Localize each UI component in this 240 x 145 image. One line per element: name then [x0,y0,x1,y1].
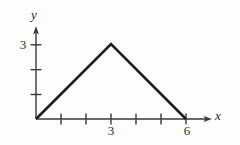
y-axis-label: y [31,8,37,21]
graph-figure: y x 3 3 6 [0,0,240,145]
y-tick-label-3: 3 [17,38,29,51]
y-axis [33,26,39,119]
x-tick-label-6: 6 [180,124,194,137]
x-axis-label: x [215,109,221,122]
x-tick-label-3: 3 [104,124,118,137]
data-curve [36,44,186,119]
